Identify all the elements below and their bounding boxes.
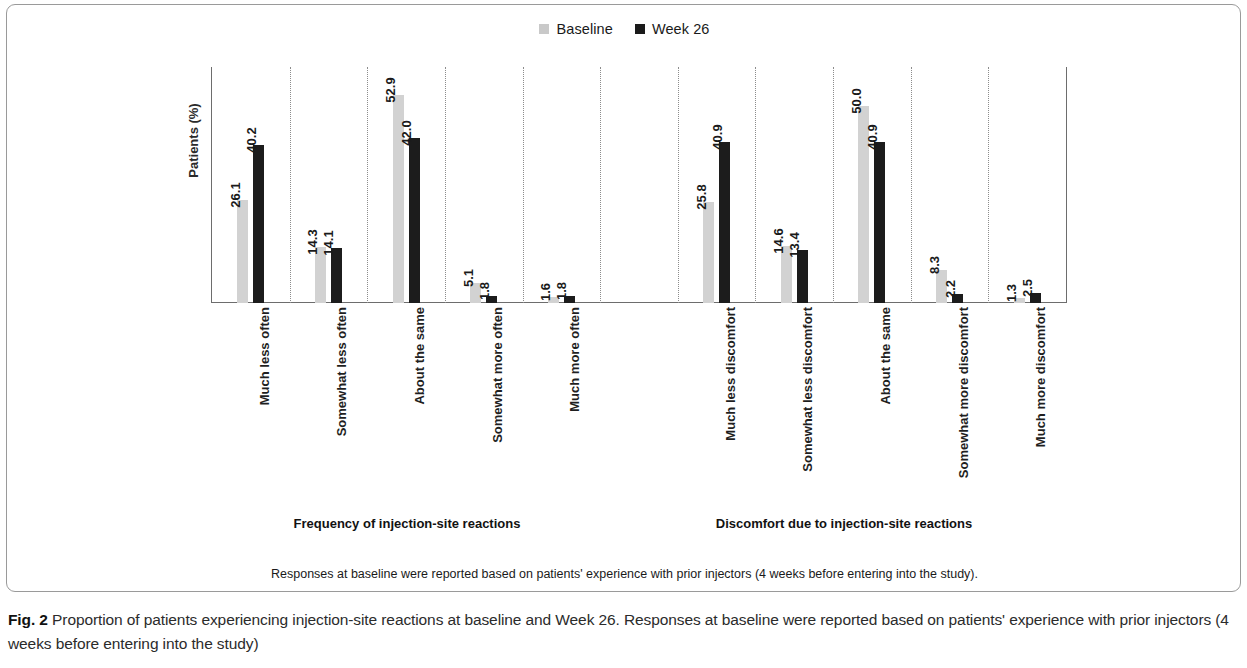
bar-baseline: 1.3 (1014, 298, 1025, 303)
category-label: About the same (412, 307, 427, 405)
bar-slot: 52.942.0 (367, 67, 445, 303)
category-label-cell: About the same (367, 305, 445, 485)
bar-value-label: 8.3 (927, 256, 942, 274)
y-axis-title: Patients (%) (186, 81, 201, 201)
legend-swatch-week26-icon (635, 24, 645, 34)
bar-slot: 1.61.8 (523, 67, 601, 303)
category-label: Much less discomfort (723, 307, 738, 441)
plot-right-border (1066, 67, 1067, 303)
bar-value-label: 1.8 (554, 282, 569, 300)
legend-item-baseline: Baseline (539, 21, 612, 37)
bar-slot-empty (600, 67, 678, 303)
category-label-cell: Much more often (523, 305, 601, 485)
category-label-cell: Somewhat more often (445, 305, 523, 485)
bar-pair: 5.11.8 (445, 67, 523, 303)
bar-pair: 1.32.5 (988, 67, 1066, 303)
bar-pair: 14.314.1 (290, 67, 368, 303)
bar-week26: 40.9 (719, 142, 730, 303)
bar-pair: 25.840.9 (678, 67, 756, 303)
figure-caption-text: Proportion of patients experiencing inje… (8, 611, 1229, 652)
plot-area: 26.140.214.314.152.942.05.11.81.61.825.8… (211, 67, 1067, 303)
bar-value-label: 14.1 (321, 230, 336, 255)
category-label-cell: About the same (833, 305, 911, 485)
bar-pair: 26.140.2 (212, 67, 290, 303)
figure-panel: Baseline Week 26 Patients (%) 26.140.214… (6, 4, 1241, 592)
bar-week26: 2.2 (952, 294, 963, 303)
bar-slot: 5.11.8 (445, 67, 523, 303)
bar-slot: 14.314.1 (290, 67, 368, 303)
bar-week26: 1.8 (564, 296, 575, 303)
bar-week26: 40.9 (874, 142, 885, 303)
bar-baseline: 26.1 (237, 200, 248, 303)
category-label: Somewhat more often (490, 307, 505, 443)
bar-value-label: 2.5 (1020, 279, 1035, 297)
bar-baseline: 25.8 (703, 202, 714, 303)
bar-value-label: 42.0 (399, 120, 414, 145)
legend-label-week26: Week 26 (652, 21, 710, 37)
bar-week26: 1.8 (486, 296, 497, 303)
bar-slot: 26.140.2 (212, 67, 290, 303)
bar-value-label: 1.3 (1004, 284, 1019, 302)
bar-value-label: 14.6 (771, 228, 786, 253)
bar-pair: 50.040.9 (833, 67, 911, 303)
category-label: Much less often (257, 307, 272, 405)
figure-caption: Fig. 2 Proportion of patients experienci… (8, 608, 1240, 656)
category-label-empty (600, 305, 678, 485)
bar-pair: 52.942.0 (367, 67, 445, 303)
category-label: About the same (878, 307, 893, 405)
bar-pair: 14.613.4 (755, 67, 833, 303)
legend-swatch-baseline-icon (539, 24, 549, 34)
category-label-cell: Somewhat less discomfort (755, 305, 833, 485)
figure-label: Fig. 2 (8, 611, 48, 628)
category-label: Much more often (567, 307, 582, 412)
bar-pair: 8.32.2 (911, 67, 989, 303)
bar-slot: 25.840.9 (678, 67, 756, 303)
category-label: Somewhat less often (334, 307, 349, 436)
bar-week26: 42.0 (409, 138, 420, 303)
category-label-cell: Much less discomfort (678, 305, 756, 485)
bar-slot: 1.32.5 (988, 67, 1066, 303)
bar-week26: 13.4 (797, 250, 808, 303)
bar-value-label: 13.4 (787, 233, 802, 258)
bar-slot: 50.040.9 (833, 67, 911, 303)
bar-value-label: 26.1 (228, 183, 243, 208)
bar-value-label: 5.1 (461, 269, 476, 287)
bar-week26: 40.2 (253, 145, 264, 303)
bar-slot-container: 26.140.214.314.152.942.05.11.81.61.825.8… (212, 67, 1066, 303)
bar-value-label: 1.6 (538, 283, 553, 301)
bar-slot: 8.32.2 (911, 67, 989, 303)
bar-week26: 14.1 (331, 248, 342, 303)
category-label-cell: Much less often (212, 305, 290, 485)
category-label-cell: Somewhat less often (290, 305, 368, 485)
legend-label-baseline: Baseline (556, 21, 612, 37)
bar-value-label: 50.0 (849, 89, 864, 114)
bar-value-label: 40.2 (244, 127, 259, 152)
category-label-cell: Much more discomfort (988, 305, 1066, 485)
bar-value-label: 2.2 (943, 280, 958, 298)
bar-value-label: 52.9 (383, 77, 398, 102)
chart-footnote: Responses at baseline were reported base… (7, 567, 1242, 581)
group-title-container: Frequency of injection-site reactions Di… (211, 516, 1067, 534)
bar-value-label: 14.3 (305, 229, 320, 254)
category-label: Much more discomfort (1033, 307, 1048, 447)
bar-value-label: 40.9 (710, 124, 725, 149)
chart-legend: Baseline Week 26 (7, 21, 1242, 37)
bar-slot: 14.613.4 (755, 67, 833, 303)
bar-value-label: 25.8 (694, 184, 709, 209)
category-label: Somewhat less discomfort (800, 307, 815, 472)
bar-week26: 2.5 (1030, 293, 1041, 303)
bar-value-label: 1.8 (477, 282, 492, 300)
category-label: Somewhat more discomfort (956, 307, 971, 478)
bar-pair: 1.61.8 (523, 67, 601, 303)
group-title-frequency: Frequency of injection-site reactions (294, 516, 521, 531)
category-label-container: Much less oftenSomewhat less oftenAbout … (212, 305, 1066, 485)
category-label-cell: Somewhat more discomfort (911, 305, 989, 485)
bar-value-label: 40.9 (865, 124, 880, 149)
figure-root: Baseline Week 26 Patients (%) 26.140.214… (0, 0, 1247, 668)
group-title-discomfort: Discomfort due to injection-site reactio… (716, 516, 972, 531)
legend-item-week26: Week 26 (635, 21, 710, 37)
